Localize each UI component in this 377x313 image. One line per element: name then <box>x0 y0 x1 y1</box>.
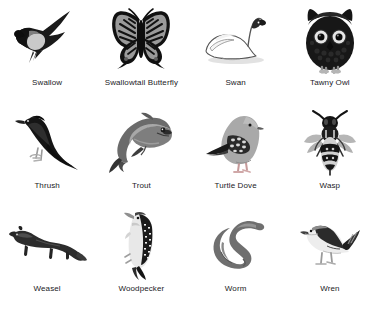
caption-worm: Worm <box>225 284 247 294</box>
caption-woodpecker: Woodpecker <box>118 284 164 294</box>
grid-cell-thrush[interactable]: Thrush <box>0 103 94 206</box>
grid-cell-trout[interactable]: Trout <box>94 103 188 206</box>
caption-swan: Swan <box>225 78 245 88</box>
grid-cell-swan[interactable]: Swan <box>189 0 283 103</box>
wren-icon <box>288 210 372 282</box>
thrush-icon <box>5 107 89 179</box>
caption-thrush: Thrush <box>34 181 60 191</box>
swallowtail-butterfly-icon <box>99 4 183 76</box>
caption-wren: Wren <box>320 284 339 294</box>
caption-weasel: Weasel <box>34 284 61 294</box>
swallow-icon <box>5 4 89 76</box>
caption-turtle-dove: Turtle Dove <box>215 181 257 191</box>
swan-icon <box>194 4 278 76</box>
tawny-owl-icon <box>288 4 372 76</box>
worm-icon <box>194 210 278 282</box>
caption-butterfly: Swallowtail Butterfly <box>105 78 178 88</box>
grid-cell-weasel[interactable]: Weasel <box>0 206 94 309</box>
caption-swallow: Swallow <box>32 78 62 88</box>
grid-cell-wasp[interactable]: Wasp <box>283 103 377 206</box>
trout-icon <box>99 107 183 179</box>
caption-tawny-owl: Tawny Owl <box>310 78 350 88</box>
grid-cell-wren[interactable]: Wren <box>283 206 377 309</box>
grid-cell-turtle-dove[interactable]: Turtle Dove <box>189 103 283 206</box>
turtle-dove-icon <box>194 107 278 179</box>
caption-trout: Trout <box>132 181 151 191</box>
woodpecker-icon <box>99 210 183 282</box>
weasel-icon <box>5 210 89 282</box>
grid-cell-butterfly[interactable]: Swallowtail Butterfly <box>94 0 188 103</box>
wasp-icon <box>288 107 372 179</box>
grid-cell-swallow[interactable]: Swallow <box>0 0 94 103</box>
grid-cell-woodpecker[interactable]: Woodpecker <box>94 206 188 309</box>
grid-cell-tawny-owl[interactable]: Tawny Owl <box>283 0 377 103</box>
animal-grid: Swallow <box>0 0 377 313</box>
grid-cell-worm[interactable]: Worm <box>189 206 283 309</box>
caption-wasp: Wasp <box>320 181 341 191</box>
